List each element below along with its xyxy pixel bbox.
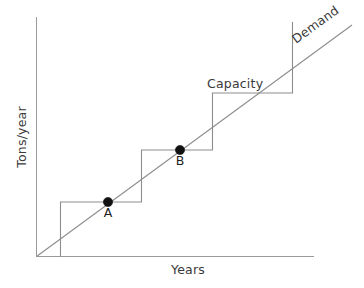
point-b-label: B	[176, 153, 185, 168]
demand-label: Demand	[289, 2, 342, 46]
x-axis-title: Years	[170, 262, 205, 277]
demand-line	[37, 25, 353, 257]
capacity-label: Capacity	[207, 76, 264, 91]
y-axis-title: Tons/year	[14, 106, 29, 169]
capacity-step-line	[61, 22, 293, 257]
chart-canvas: A B Capacity Demand Tons/year Years	[0, 0, 364, 288]
capacity-demand-chart: A B Capacity Demand Tons/year Years	[0, 0, 364, 288]
point-a-label: A	[104, 205, 113, 220]
